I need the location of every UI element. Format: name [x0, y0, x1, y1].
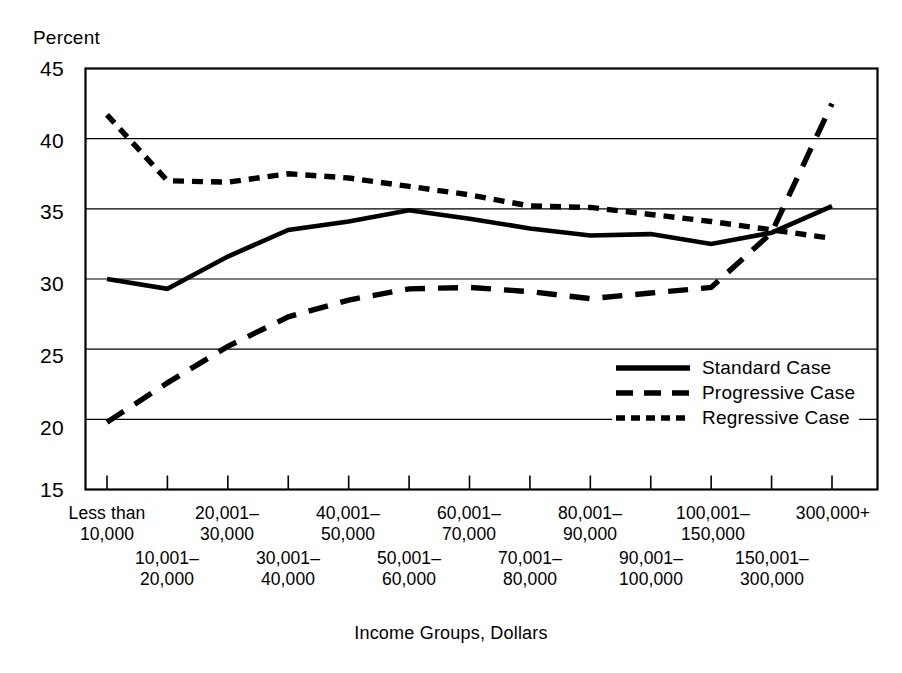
x-tick-label-4: 30,001– 40,000 [228, 548, 348, 590]
x-tick-label-11-line1: 100,001– [650, 503, 776, 524]
legend-item-progressive-case[interactable]: Progressive Case [614, 380, 855, 405]
x-tick-label-7-line2: 70,000 [409, 524, 529, 545]
legend-label-standard-case: Standard Case [702, 357, 831, 379]
x-tick-label-2-line1: 10,001– [107, 548, 227, 569]
x-tick-label-2: 10,001– 20,000 [107, 548, 227, 590]
x-axis-ticks [107, 476, 832, 490]
x-tick-label-5-line1: 40,001– [288, 503, 408, 524]
x-tick-label-1-line2: 10,000 [47, 524, 167, 545]
x-tick-label-11: 100,001– 150,000 [650, 503, 776, 545]
legend-label-progressive-case: Progressive Case [702, 382, 855, 404]
legend-label-regressive-case: Regressive Case [702, 407, 850, 429]
x-tick-label-1: Less than 10,000 [47, 503, 167, 545]
x-tick-label-4-line1: 30,001– [228, 548, 348, 569]
x-tick-label-12-line1: 150,001– [709, 548, 835, 569]
x-tick-label-3-line1: 20,001– [167, 503, 287, 524]
x-tick-label-8-line2: 80,000 [470, 569, 590, 590]
legend-swatch-dotted-icon [614, 411, 692, 425]
legend-item-standard-case[interactable]: Standard Case [614, 355, 855, 380]
x-tick-label-8: 70,001– 80,000 [470, 548, 590, 590]
x-tick-label-4-line2: 40,000 [228, 569, 348, 590]
x-tick-label-5-line2: 50,000 [288, 524, 408, 545]
x-tick-label-6: 50,001– 60,000 [349, 548, 469, 590]
x-tick-label-8-line1: 70,001– [470, 548, 590, 569]
x-tick-label-3: 20,001– 30,000 [167, 503, 287, 545]
x-tick-label-11-line2: 150,000 [650, 524, 776, 545]
x-tick-label-9-line1: 80,001– [530, 503, 650, 524]
x-tick-label-1-line1: Less than [47, 503, 167, 524]
x-axis-title: Income Groups, Dollars [0, 623, 902, 644]
legend-swatch-dashed-icon [614, 386, 692, 400]
x-tick-label-9-line2: 90,000 [530, 524, 650, 545]
x-tick-label-7-line1: 60,001– [409, 503, 529, 524]
x-tick-label-3-line2: 30,000 [167, 524, 287, 545]
x-tick-label-13-line1: 300,000+ [772, 503, 894, 524]
x-tick-label-10: 90,001– 100,000 [588, 548, 714, 590]
x-tick-label-5: 40,001– 50,000 [288, 503, 408, 545]
series-line-standard-case [107, 206, 832, 289]
x-tick-label-10-line1: 90,001– [588, 548, 714, 569]
legend-swatch-solid-icon [614, 361, 692, 375]
x-tick-label-6-line1: 50,001– [349, 548, 469, 569]
x-tick-label-2-line2: 20,000 [107, 569, 227, 590]
chart-legend: Standard Case Progressive Case Regressiv… [612, 353, 859, 433]
x-tick-label-12-line2: 300,000 [709, 569, 835, 590]
x-tick-label-12: 150,001– 300,000 [709, 548, 835, 590]
x-tick-label-13: 300,000+ [772, 503, 894, 524]
x-tick-label-6-line2: 60,000 [349, 569, 469, 590]
legend-item-regressive-case[interactable]: Regressive Case [614, 405, 855, 430]
chart-figure: Percent 45 40 35 30 25 20 15 Less than 1… [0, 0, 902, 673]
x-tick-label-10-line2: 100,000 [588, 569, 714, 590]
x-tick-label-9: 80,001– 90,000 [530, 503, 650, 545]
x-tick-label-7: 60,001– 70,000 [409, 503, 529, 545]
